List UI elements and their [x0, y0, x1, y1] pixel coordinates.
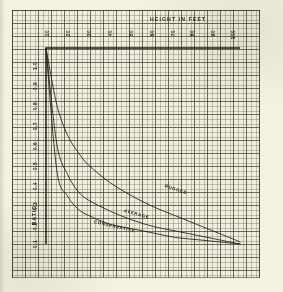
plot-area: RUGGED AVERAGE CONSERVATIVE: [46, 48, 240, 244]
page-edge-shadow: [0, 0, 5, 292]
chart-page: HEIGHT IN FEET 10 20 30 40 50 60 70 80 9…: [0, 0, 283, 292]
